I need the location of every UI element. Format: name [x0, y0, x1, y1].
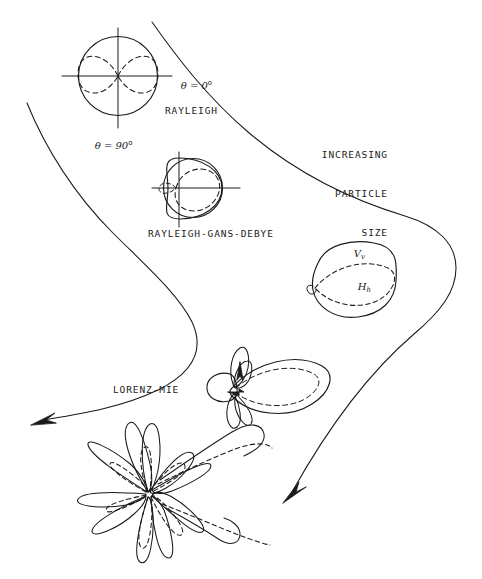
theta-ninety-degree: o	[128, 139, 132, 147]
increasing-line-2: PARTICLE	[283, 187, 388, 200]
increasing-line-1: INCREASING	[283, 148, 388, 161]
multilobe-solid-lobe-10	[152, 463, 211, 493]
lorenz-mie-lower-side-lobe-2	[235, 394, 252, 425]
upper-trend-arrowhead	[283, 482, 306, 503]
hh-subscript-text: h	[366, 286, 371, 294]
lorenz-mie-pattern	[207, 347, 330, 428]
theta-zero-label: θ = 0o	[168, 68, 212, 102]
multilobe-pattern	[77, 422, 272, 563]
multilobe-dashed-lobe-4	[106, 495, 146, 512]
rayleigh-dashed-lobe-left	[78, 56, 118, 93]
rayleigh-label: RAYLEIGH	[165, 105, 218, 118]
lorenz-mie-forward-lobe	[230, 360, 330, 414]
lorenz-mie-label: LORENZ-MIE	[113, 384, 179, 397]
theta-zero-degree: o	[208, 79, 212, 87]
increasing-particle-size-annotation: INCREASING PARTICLE SIZE	[283, 122, 388, 265]
rayleigh-pattern	[62, 28, 172, 128]
multilobe-dashed-streamer-lower	[162, 504, 270, 545]
multilobe-solid-lobe-4	[88, 442, 147, 492]
rayleigh-dashed-lobe-right	[118, 56, 158, 93]
rgd-dashed-lobe	[175, 169, 220, 211]
rayleigh-gans-debye-pattern	[152, 152, 240, 227]
theta-zero-text: θ = 0	[181, 80, 208, 91]
multilobe-dashed-lobe-5	[139, 497, 152, 548]
scattering-diagram-figure: θ = 0o θ = 90o RAYLEIGH RAYLEIGH-GANS-DE…	[0, 0, 482, 579]
lorenz-mie-junction-arrow-upper	[237, 362, 243, 380]
vv-back-nub	[307, 285, 316, 294]
rayleigh-gans-debye-label: RAYLEIGH-GANS-DEBYE	[148, 228, 274, 241]
multilobe-solid-lobe-9	[152, 492, 204, 532]
increasing-line-3: SIZE	[283, 226, 388, 239]
multilobe-dashed-lobe-6	[151, 496, 183, 536]
theta-ninety-text: θ = 90	[95, 140, 128, 151]
hh-label: Hh	[345, 270, 371, 305]
multilobe-streamer-upper	[160, 425, 264, 480]
theta-ninety-label: θ = 90o	[82, 128, 133, 162]
diagram-canvas	[0, 0, 482, 579]
